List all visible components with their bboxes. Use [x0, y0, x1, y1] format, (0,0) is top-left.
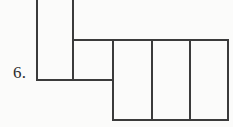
- net-diagram: [0, 0, 233, 127]
- figure-container: 6.: [0, 0, 233, 127]
